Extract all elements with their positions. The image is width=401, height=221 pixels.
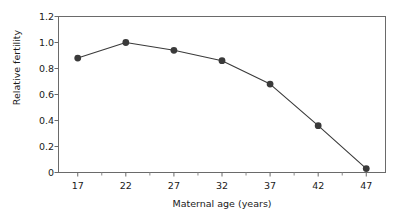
y-axis-title: Relative fertility xyxy=(11,8,22,128)
x-tick-label: 47 xyxy=(351,180,381,191)
x-tick-label: 22 xyxy=(111,180,141,191)
x-tick-label: 42 xyxy=(303,180,333,191)
chart-figure: 00.20.40.60.81.01.2 17222732374247 Relat… xyxy=(0,0,401,221)
x-tick-label: 17 xyxy=(63,180,93,191)
x-tick-label: 27 xyxy=(159,180,189,191)
x-axis-title: Maternal age (years) xyxy=(58,198,386,209)
x-tick-label: 32 xyxy=(207,180,237,191)
x-axis-tick-labels: 17222732374247 xyxy=(0,0,401,221)
x-tick-label: 37 xyxy=(255,180,285,191)
